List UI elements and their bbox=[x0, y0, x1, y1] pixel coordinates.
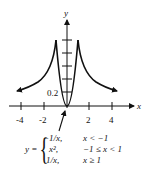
graph: x -4 -2 2 4 y 0.2 y = { −1/x, x < −1 x²,… bbox=[0, 0, 151, 173]
case-cond: x < −1 bbox=[82, 133, 108, 143]
y-axis: y 0.2 bbox=[47, 8, 72, 108]
case-cond: −1 ≤ x < 1 bbox=[83, 144, 122, 154]
x-tick-label: 4 bbox=[109, 115, 114, 125]
y-tick-label: 0.2 bbox=[47, 88, 58, 98]
y-axis-label: y bbox=[63, 8, 68, 18]
case-cond: x ≥ 1 bbox=[82, 155, 101, 165]
pointer-arrow bbox=[59, 111, 65, 131]
right-branch bbox=[78, 40, 117, 91]
case-expr: x², bbox=[48, 144, 58, 154]
x-tick-label: 2 bbox=[86, 115, 91, 125]
x-tick-label: -4 bbox=[16, 115, 24, 125]
x-tick-label: -2 bbox=[39, 115, 47, 125]
x-axis-label: x bbox=[136, 101, 141, 111]
formula-lhs: y = bbox=[24, 144, 37, 154]
piecewise-formula: y = { −1/x, x < −1 x², −1 ≤ x < 1 1/x, x… bbox=[24, 131, 122, 167]
case-expr: −1/x, bbox=[43, 133, 62, 143]
x-axis: x -4 -2 2 4 bbox=[9, 101, 141, 125]
case-expr: 1/x, bbox=[46, 155, 59, 165]
left-branch bbox=[17, 40, 56, 91]
